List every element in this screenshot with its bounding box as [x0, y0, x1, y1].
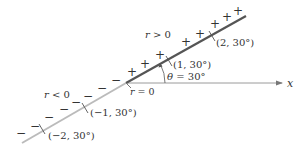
point-label-p1: (1, 30°) [173, 59, 211, 70]
plus-sign: + [140, 57, 150, 71]
minus-sign: − [71, 95, 81, 109]
plus-sign: + [210, 17, 220, 31]
polar-diagram: x θ = 30° r = 0 (1, 30°) (2, 30°) (−1, 3… [0, 0, 301, 151]
point-label-pn1: (−1, 30°) [90, 107, 137, 118]
minus-sign: − [30, 119, 40, 133]
minus-sign: − [59, 102, 69, 116]
minus-sign: − [97, 81, 107, 95]
point-label-pn2: (−2, 30°) [48, 130, 95, 141]
origin-label: r = 0 [130, 86, 155, 97]
minus-sign: − [16, 126, 26, 140]
minus-sign: − [111, 73, 121, 87]
x-axis-label: x [287, 77, 294, 90]
plus-sign: + [155, 48, 165, 62]
plus-sign: + [181, 35, 191, 49]
plus-sign: + [195, 27, 205, 41]
angle-label: θ = 30° [167, 71, 206, 82]
angle-arc [161, 65, 166, 84]
plus-sign: + [233, 4, 243, 18]
r-positive-label: r > 0 [145, 29, 171, 40]
point-label-p2: (2, 30°) [216, 37, 254, 48]
plus-sign: + [222, 10, 232, 24]
minus-sign: − [83, 89, 93, 103]
x-axis-arrowhead-icon [276, 81, 283, 86]
plus-sign: + [127, 65, 137, 79]
minus-sign: − [44, 110, 54, 124]
r-negative-label: r < 0 [44, 89, 70, 100]
